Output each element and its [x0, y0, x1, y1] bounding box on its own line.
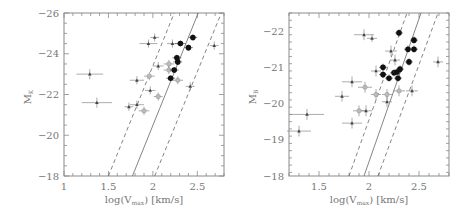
data-point [186, 45, 192, 51]
data-point [411, 46, 417, 52]
y-axis-label: MB [247, 89, 259, 104]
data-point [171, 67, 177, 73]
mk-panel: 11.522.5−26−24−22−20−18log(Vmax) [km/s]M… [22, 8, 224, 207]
lower-bound-line [108, 13, 174, 176]
plot-frame [289, 13, 449, 176]
data-point [397, 66, 403, 72]
data-point [405, 46, 411, 52]
data-point [176, 78, 180, 82]
y-tick-label: −19 [263, 134, 284, 145]
data-point [386, 75, 392, 81]
x-tick-label: 1.5 [100, 181, 116, 192]
x-tick-label: 2.5 [411, 181, 427, 192]
x-tick-label: 1 [61, 181, 67, 192]
data-point [396, 30, 402, 36]
x-axis-label: log(Vmax) [km/s] [330, 194, 408, 206]
data-point [406, 59, 412, 65]
plot-frame [64, 13, 224, 176]
data-point [385, 92, 389, 96]
data-point [411, 37, 417, 43]
data-point [190, 35, 196, 41]
data-point [178, 41, 184, 47]
data-point [167, 62, 171, 66]
data-point [380, 72, 386, 78]
y-tick-label: −21 [263, 62, 284, 73]
data-point [156, 94, 160, 98]
data-point [147, 74, 151, 78]
data-point [142, 109, 146, 113]
y-tick-label: −20 [263, 98, 284, 109]
x-axis-label: log(Vmax) [km/s] [105, 194, 183, 206]
x-tick-label: 2 [150, 181, 156, 192]
data-point [380, 65, 386, 71]
data-point [168, 75, 174, 81]
data-point [357, 109, 361, 113]
x-tick-label: 2.5 [189, 181, 205, 192]
fit-line [132, 13, 198, 176]
chart-figure: 11.522.5−26−24−22−20−18log(Vmax) [km/s]M… [0, 0, 472, 217]
x-tick-label: 2 [366, 181, 372, 192]
data-point [363, 85, 367, 89]
y-tick-label: −18 [263, 171, 284, 182]
data-point [374, 92, 378, 96]
data-point [395, 75, 401, 81]
y-tick-label: −18 [38, 171, 59, 182]
x-tick-label: 1.5 [311, 181, 327, 192]
y-axis-label: MK [22, 89, 34, 104]
y-tick-label: −24 [38, 48, 59, 59]
y-tick-label: −22 [263, 26, 284, 37]
y-tick-label: −22 [38, 89, 59, 100]
y-tick-label: −26 [38, 8, 59, 19]
y-tick-label: −20 [38, 130, 59, 141]
mb-panel: 1.522.5−22−21−20−19−18log(Vmax) [km/s]MB [247, 13, 449, 206]
data-point [397, 89, 401, 93]
data-point [175, 59, 181, 65]
